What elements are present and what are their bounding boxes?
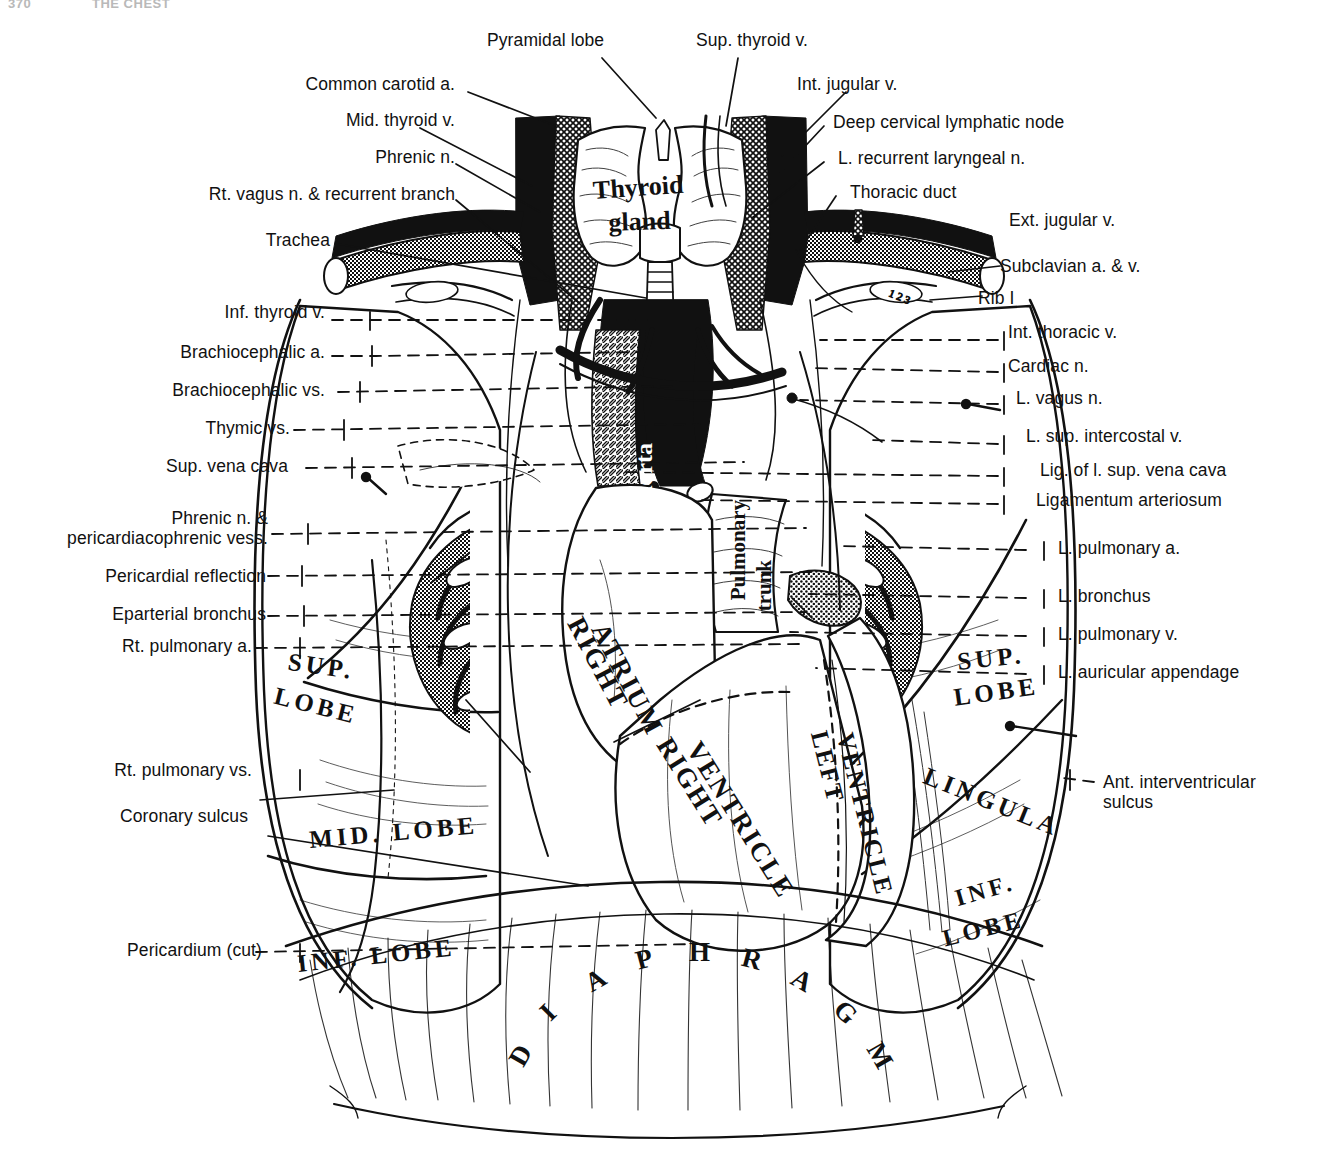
anat-aorta: Aorta: [631, 443, 658, 503]
label-l-pulmonary-v: L. pulmonary v.: [1058, 624, 1178, 644]
label-mid-thyroid-v: Mid. thyroid v.: [0, 110, 455, 130]
label-l-pulmonary-a: L. pulmonary a.: [1058, 538, 1180, 558]
label-pyramidal-lobe: Pyramidal lobe: [487, 30, 604, 50]
label-deep-cervical-lymphatic-node: Deep cervical lymphatic node: [833, 112, 1064, 132]
label-rt-vagus-n: Rt. vagus n. & recurrent branch: [0, 184, 455, 204]
anat-diaphragm-letter: H: [689, 937, 710, 968]
label-ext-jugular-v: Ext. jugular v.: [1009, 210, 1115, 230]
label-pericardial-reflection: Pericardial reflection: [0, 566, 266, 586]
label-sup-vena-cava: Sup. vena cava: [0, 456, 288, 476]
label-l-bronchus: L. bronchus: [1058, 586, 1151, 606]
label-sup-thyroid-v: Sup. thyroid v.: [696, 30, 808, 50]
label-lig-of-l-sup-vena-cava: Lig. of l. sup. vena cava: [1040, 460, 1226, 480]
label-brachiocephalic-vs: Brachiocephalic vs.: [0, 380, 325, 400]
label-phrenic-n-pericardiacophrenic: Phrenic n. &pericardiacophrenic vess.: [0, 508, 268, 548]
label-rt-pulmonary-a: Rt. pulmonary a.: [0, 636, 252, 656]
label-phrenic-n: Phrenic n.: [0, 147, 455, 167]
label-trachea: Trachea: [0, 230, 330, 250]
label-l-recurrent-laryngeal-n: L. recurrent laryngeal n.: [838, 148, 1025, 168]
label-ant-interventricular-sulcus: Ant. interventricularsulcus: [1103, 772, 1323, 812]
figure-page: 370 THE CHEST: [0, 0, 1330, 1166]
label-eparterial-bronchus: Eparterial bronchus: [0, 604, 266, 624]
label-pericardium-cut: Pericardium (cut): [0, 940, 262, 960]
label-ligamentum-arteriosum: Ligamentum arteriosum: [1036, 490, 1222, 510]
anat-pulmonary-trunk-line1: Pulmonary: [726, 500, 751, 600]
label-int-thoracic-v: Int. thoracic v.: [1008, 322, 1117, 342]
label-rib-i: Rib I: [978, 288, 1014, 308]
label-brachiocephalic-a: Brachiocephalic a.: [0, 342, 325, 362]
label-rt-pulmonary-vs: Rt. pulmonary vs.: [0, 760, 252, 780]
label-int-jugular-v: Int. jugular v.: [797, 74, 897, 94]
label-thymic-vs: Thymic vs.: [0, 418, 290, 438]
label-coronary-sulcus: Coronary sulcus: [0, 806, 248, 826]
anat-pulmonary-trunk-line2: trunk: [752, 560, 777, 611]
label-inf-thyroid-v: Inf. thyroid v.: [0, 302, 325, 322]
label-cardiac-n: Cardiac n.: [1008, 356, 1089, 376]
label-thoracic-duct: Thoracic duct: [850, 182, 956, 202]
label-l-sup-intercostal-v: L. sup. intercostal v.: [1026, 426, 1183, 446]
label-l-auricular-appendage: L. auricular appendage: [1058, 662, 1239, 682]
anat-thyroid-gland-line1: Thyroid: [592, 170, 684, 206]
anat-thyroid-gland-line2: gland: [608, 206, 671, 238]
label-common-carotid-a: Common carotid a.: [0, 74, 455, 94]
label-l-vagus-n: L. vagus n.: [1016, 388, 1103, 408]
label-subclavian-a-v: Subclavian a. & v.: [1000, 256, 1141, 276]
